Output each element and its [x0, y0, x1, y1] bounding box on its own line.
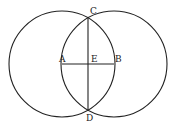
- label-a: A: [58, 54, 66, 64]
- label-b: B: [115, 54, 122, 64]
- label-d: D: [86, 113, 93, 123]
- label-e: E: [91, 54, 98, 64]
- label-c: C: [90, 6, 97, 16]
- geometry-diagram: C A E B D: [0, 0, 172, 127]
